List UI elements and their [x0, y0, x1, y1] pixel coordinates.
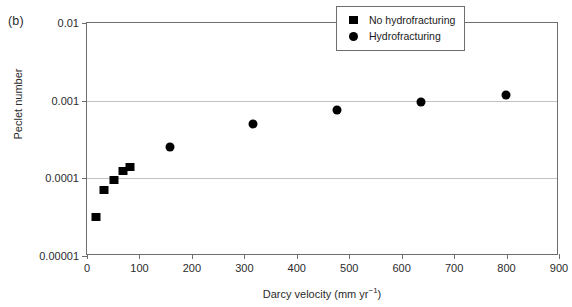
x-tick-label: 300	[235, 262, 253, 274]
data-point-square	[109, 176, 118, 184]
x-tick-mark	[297, 254, 298, 259]
x-tick-label: 0	[84, 262, 90, 274]
y-tick-mark	[82, 178, 87, 179]
x-tick-label: 400	[288, 262, 306, 274]
x-tick-mark	[139, 254, 140, 259]
marker-glyph	[349, 16, 358, 24]
x-axis-title-tail: )	[378, 288, 382, 300]
x-tick-label: 700	[445, 262, 463, 274]
data-point-circle	[333, 105, 342, 114]
x-tick-mark	[559, 254, 560, 259]
data-point-circle	[165, 143, 174, 152]
legend-square-icon	[344, 16, 362, 24]
x-tick-label: 100	[130, 262, 148, 274]
x-tick-label: 600	[392, 262, 410, 274]
legend-item-label: Hydrofracturing	[369, 30, 441, 42]
legend-item-label: No hydrofracturing	[369, 14, 455, 26]
x-axis-title-exponent: −1	[368, 286, 377, 295]
data-point-circle	[502, 90, 511, 99]
gridline	[87, 101, 557, 102]
x-tick-label: 200	[183, 262, 201, 274]
y-tick-label: 0.0001	[45, 172, 79, 184]
y-tick-label: 0.01	[58, 17, 79, 29]
y-tick-label: 0.00001	[39, 250, 79, 262]
gridline	[87, 178, 557, 179]
x-tick-mark	[87, 254, 88, 259]
x-tick-mark	[192, 254, 193, 259]
data-point-square	[99, 186, 108, 194]
plot-area: 0.010.0010.00010.00001 01002003004005006…	[86, 22, 558, 255]
data-point-square	[126, 163, 135, 171]
x-tick-label: 900	[550, 262, 568, 274]
legend: No hydrofracturingHydrofracturing	[336, 6, 465, 51]
x-tick-mark	[402, 254, 403, 259]
data-point-circle	[249, 120, 258, 129]
legend-circle-icon	[344, 32, 362, 41]
data-point-square	[91, 213, 100, 221]
x-tick-label: 500	[340, 262, 358, 274]
data-point-circle	[417, 98, 426, 107]
x-tick-label: 800	[497, 262, 515, 274]
y-tick-mark	[82, 101, 87, 102]
x-tick-mark	[349, 254, 350, 259]
y-tick-label: 0.001	[51, 95, 79, 107]
y-axis-title: Peclet number	[12, 44, 24, 164]
marker-glyph	[349, 32, 358, 41]
x-tick-mark	[507, 254, 508, 259]
x-tick-mark	[454, 254, 455, 259]
x-axis-title-base: Darcy velocity (mm yr	[263, 288, 369, 300]
x-tick-mark	[244, 254, 245, 259]
panel-label: (b)	[8, 14, 24, 28]
legend-item: No hydrofracturing	[344, 12, 455, 28]
figure-panel-b: (b) Peclet number Darcy velocity (mm yr−…	[0, 0, 572, 307]
x-axis-title: Darcy velocity (mm yr−1)	[86, 286, 558, 300]
y-tick-mark	[82, 23, 87, 24]
legend-item: Hydrofracturing	[344, 28, 455, 44]
